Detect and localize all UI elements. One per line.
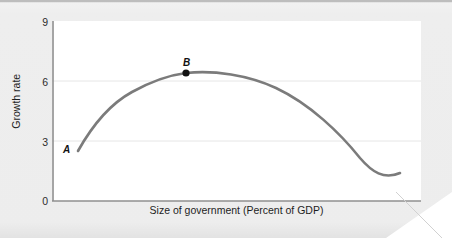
annotation-label-a: A (63, 145, 70, 155)
annotation-label-b: B (183, 58, 190, 68)
y-axis-title: Growth rate (11, 61, 22, 141)
point-b-marker (182, 69, 189, 76)
y-tick-label-6: 6 (26, 77, 48, 88)
page-corner-edge (386, 192, 452, 238)
y-tick-label-0: 0 (26, 196, 48, 207)
growth-curve-path (78, 72, 400, 175)
figure-page: 9 6 3 0 Growth rate Size of government (… (0, 0, 452, 238)
page-bottom-shadow (0, 222, 452, 238)
growth-rate-curve-chart (0, 0, 452, 238)
y-tick-label-9: 9 (26, 17, 48, 28)
x-axis-title: Size of government (Percent of GDP) (52, 205, 421, 216)
y-tick-label-3: 3 (26, 137, 48, 148)
